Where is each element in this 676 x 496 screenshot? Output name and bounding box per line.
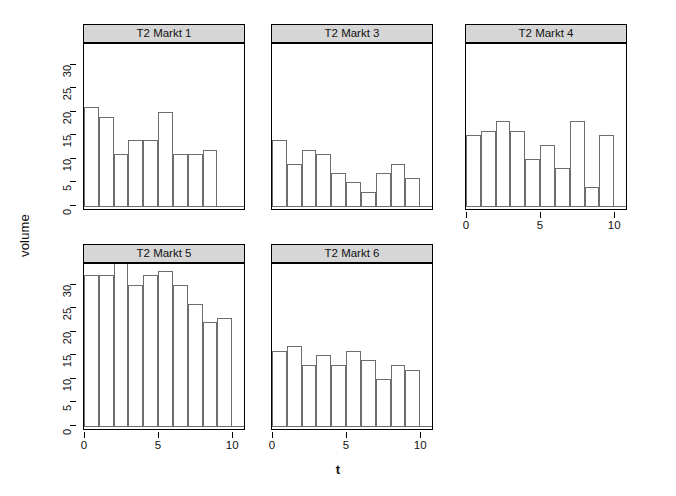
- x-axis-tick: [272, 432, 273, 438]
- histogram-bar: [331, 365, 346, 427]
- y-axis-tick-label: 25: [61, 87, 73, 101]
- histogram-bar: [99, 275, 114, 427]
- y-axis-tick-label: 5: [61, 401, 73, 415]
- panel-t2-markt-5[interactable]: T2 Markt 5: [83, 244, 245, 430]
- y-axis-tick-label: 10: [61, 378, 73, 392]
- y-axis-bottom-row: 051015202530: [34, 279, 76, 429]
- y-axis-tick-label: 15: [61, 354, 73, 368]
- plot-area-t2-markt-6: [272, 264, 432, 429]
- histogram-bar: [302, 365, 317, 427]
- histogram-bar: [158, 271, 173, 427]
- histogram-bar: [346, 351, 361, 427]
- panel-t2-markt-3[interactable]: T2 Markt 3: [271, 24, 433, 210]
- histogram-bar: [316, 355, 331, 427]
- panel-t2-markt-1[interactable]: T2 Markt 1: [83, 24, 245, 210]
- histogram-bar: [496, 121, 511, 207]
- x-axis-panel-5: 0510: [84, 432, 244, 456]
- x-axis-tick-label: 10: [603, 219, 625, 231]
- x-axis-tick-label: 10: [221, 439, 243, 451]
- panel-t2-markt-6[interactable]: T2 Markt 6: [271, 244, 433, 430]
- x-axis-tick-label: 0: [455, 219, 477, 231]
- histogram-bar: [510, 131, 525, 207]
- histogram-bar: [466, 135, 481, 207]
- x-axis-tick: [540, 212, 541, 218]
- histogram-bar: [540, 145, 555, 207]
- y-axis-tick-label: 25: [61, 307, 73, 321]
- x-axis-tick: [346, 432, 347, 438]
- x-axis-panel-6: 0510: [272, 432, 432, 456]
- panel-frame-t2-markt-4: [465, 43, 627, 210]
- y-axis-tick-label: 5: [61, 181, 73, 195]
- y-axis-top-row: 051015202530: [34, 59, 76, 209]
- histogram-bar: [376, 379, 391, 427]
- histogram-bar: [316, 154, 331, 207]
- histogram-bar: [405, 178, 420, 207]
- panel-t2-markt-4[interactable]: T2 Markt 4: [465, 24, 627, 210]
- histogram-bar: [188, 154, 203, 207]
- panel-strip-t2-markt-5: T2 Markt 5: [83, 244, 245, 263]
- histogram-bar: [302, 150, 317, 207]
- histogram-bar: [188, 304, 203, 427]
- histogram-bar: [481, 131, 496, 207]
- x-axis-tick: [158, 432, 159, 438]
- plot-area-t2-markt-3: [272, 44, 432, 209]
- histogram-bar: [143, 140, 158, 207]
- histogram-bar: [203, 322, 218, 427]
- y-axis-tick-label: 30: [61, 284, 73, 298]
- histogram-bar: [99, 117, 114, 207]
- x-axis-tick: [84, 432, 85, 438]
- plot-area-t2-markt-5: [84, 264, 244, 429]
- histogram-bar: [331, 173, 346, 207]
- y-axis-tick-label: 20: [61, 331, 73, 345]
- histogram-bar: [114, 154, 129, 207]
- histogram-bar: [585, 187, 600, 207]
- panel-frame-t2-markt-1: [83, 43, 245, 210]
- histogram-bar: [128, 140, 143, 207]
- histogram-bar: [272, 140, 287, 207]
- panel-strip-t2-markt-1: T2 Markt 1: [83, 24, 245, 43]
- x-axis-panel-4: 0510: [466, 212, 626, 236]
- histogram-bar: [391, 365, 406, 427]
- panel-frame-t2-markt-5: [83, 263, 245, 430]
- histogram-bar: [287, 164, 302, 207]
- histogram-bar: [272, 351, 287, 427]
- histogram-bar: [570, 121, 585, 207]
- histogram-bar: [114, 263, 129, 427]
- histogram-bar: [203, 150, 218, 207]
- histogram-bar: [361, 360, 376, 427]
- plot-area-t2-markt-4: [466, 44, 626, 209]
- panel-strip-t2-markt-6: T2 Markt 6: [271, 244, 433, 263]
- histogram-bar: [217, 318, 232, 427]
- histogram-bar: [84, 275, 99, 427]
- plot-area-t2-markt-1: [84, 44, 244, 209]
- x-axis-tick-label: 0: [73, 439, 95, 451]
- histogram-bar: [84, 107, 99, 207]
- histogram-bar: [346, 182, 361, 207]
- panel-strip-t2-markt-3: T2 Markt 3: [271, 24, 433, 43]
- x-axis-tick-label: 5: [529, 219, 551, 231]
- y-axis-tick-label: 15: [61, 134, 73, 148]
- histogram-bar: [143, 275, 158, 427]
- y-axis-tick-label: 20: [61, 111, 73, 125]
- x-axis-tick: [466, 212, 467, 218]
- histogram-bar: [391, 164, 406, 207]
- panel-frame-t2-markt-6: [271, 263, 433, 430]
- y-axis-tick-label: 30: [61, 64, 73, 78]
- x-axis-label: t: [298, 462, 378, 477]
- x-axis-tick: [614, 212, 615, 218]
- histogram-bar: [158, 112, 173, 207]
- x-axis-tick-label: 5: [147, 439, 169, 451]
- y-axis-label: volume: [17, 196, 32, 276]
- panel-frame-t2-markt-3: [271, 43, 433, 210]
- histogram-bar: [128, 285, 143, 427]
- trellis-chart: volume t 051015202530 T2 Markt 1 T2 Mark…: [0, 0, 676, 496]
- histogram-bar: [376, 173, 391, 207]
- x-axis-tick: [420, 432, 421, 438]
- histogram-bar: [361, 192, 376, 207]
- y-axis-tick-label: 0: [61, 425, 73, 439]
- histogram-bar: [405, 370, 420, 427]
- y-axis-tick-label: 10: [61, 158, 73, 172]
- panel-strip-t2-markt-4: T2 Markt 4: [465, 24, 627, 43]
- x-axis-tick: [232, 432, 233, 438]
- y-axis-tick-label: 0: [61, 205, 73, 219]
